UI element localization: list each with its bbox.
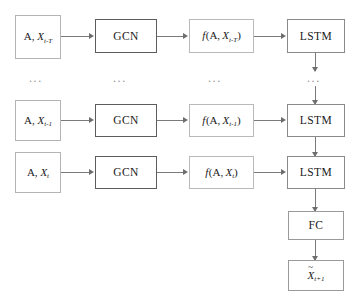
output-box: ~Xt+1 [288,260,344,291]
arrow-input-gcn-row2 [89,117,94,123]
arrow-input-gcn-row1 [89,33,94,39]
input-label-t: A, Xt [27,167,49,179]
fn-label-row1: f(A, Xt-T) [202,30,241,42]
arrow-fn-lstm-row2 [281,117,286,123]
lstm-box-row1: LSTM [287,19,345,53]
input-box-t-minus-T: A, Xt-T [15,15,61,59]
lstm-box-row2: LSTM [287,104,345,137]
connector-input-gcn-row2 [61,120,91,121]
gcn-box-row3: GCN [95,156,157,189]
architecture-diagram: A, Xt-T GCN f(A, Xt-T) LSTM ... ... ... … [0,0,358,304]
fc-box: FC [288,211,344,240]
connector-fn-lstm-row3 [254,172,283,173]
arrow-gcn-fn-row2 [183,117,188,123]
input-box-t-minus-1: A, Xt-1 [15,100,61,141]
connector-fn-lstm-row2 [254,120,283,121]
arrow-input-gcn-row3 [89,169,94,175]
fn-box-row3: f(A, Xt) [189,156,254,189]
connector-gcn-fn-row1 [157,36,185,37]
arrow-gcn-fn-row3 [183,169,188,175]
output-label: ~Xt+1 [308,270,325,282]
gcn-box-row1: GCN [95,19,157,53]
lstm-label-row2: LSTM [300,114,332,126]
fc-label: FC [309,219,324,231]
lstm-label-row1: LSTM [300,30,332,42]
gcn-label-row2: GCN [113,114,138,126]
connector-input-gcn-row3 [61,172,91,173]
fn-box-row2: f(A, Xt-1) [189,104,254,137]
gcn-label-row1: GCN [113,30,138,42]
connector-input-gcn-row1 [61,36,91,37]
input-box-t: A, Xt [15,152,61,193]
ellipsis-lstm-column: ... [307,72,321,84]
arrow-fn-lstm-row1 [281,33,286,39]
connector-gcn-fn-row3 [157,172,185,173]
fn-label-row3: f(A, Xt) [205,167,238,179]
ellipsis-input-column: ... [29,72,43,84]
gcn-label-row3: GCN [113,166,138,178]
connector-gcn-fn-row2 [157,120,185,121]
lstm-box-row3: LSTM [287,156,345,189]
fn-label-row2: f(A, Xt-1) [202,115,240,127]
arrow-fn-lstm-row3 [281,169,286,175]
lstm-label-row3: LSTM [300,166,332,178]
ellipsis-gcn-column: ... [113,72,127,84]
input-label-t-minus-1: A, Xt-1 [24,115,52,127]
gcn-box-row2: GCN [95,104,157,137]
ellipsis-fn-column: ... [208,72,222,84]
tilde-accent-icon: ~ [308,263,313,272]
arrow-gcn-fn-row1 [183,33,188,39]
connector-fn-lstm-row1 [254,36,283,37]
input-label-t-minus-T: A, Xt-T [24,31,52,43]
fn-box-row1: f(A, Xt-T) [189,19,254,53]
